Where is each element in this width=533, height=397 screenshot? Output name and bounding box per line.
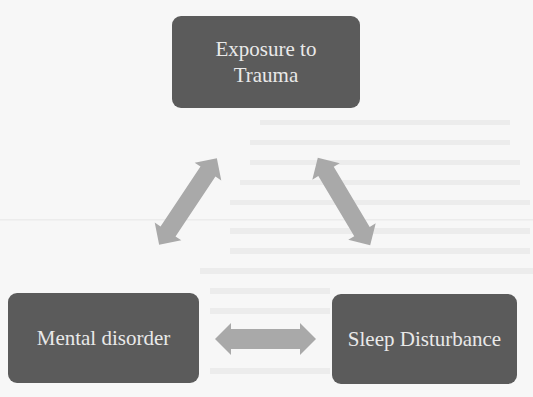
node-mental-disorder: Mental disorder [8, 293, 199, 383]
node-label: Mental disorder [37, 325, 171, 351]
node-label-line-2: Trauma [216, 62, 317, 88]
node-exposure-to-trauma: Exposure to Trauma [172, 16, 360, 108]
node-label-line-1: Exposure to [216, 36, 317, 62]
double-arrow-top-right [304, 150, 384, 254]
node-label: Sleep Disturbance [348, 326, 501, 352]
double-arrow-top-left [146, 149, 230, 253]
double-arrow-bottom [215, 323, 316, 355]
node-sleep-disturbance: Sleep Disturbance [332, 294, 517, 384]
